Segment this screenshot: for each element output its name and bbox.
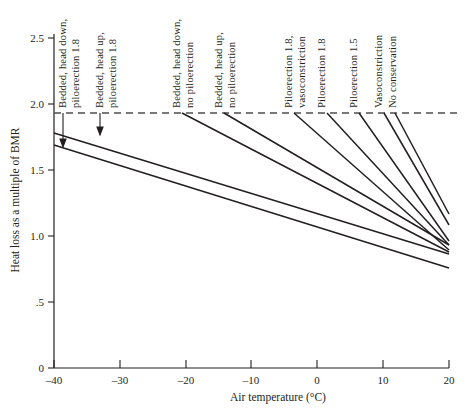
series-label-piloerection-1.8-vasoconstriction-line1: Piloerection 1.8, xyxy=(283,35,294,108)
series-label-bedded-head-up-piloerection-1.8-line1: Bedded, head up, xyxy=(94,32,105,108)
y-axis-title: Heat loss as a multiple of BMR xyxy=(9,127,22,272)
series-label-bedded-head-up-no-piloerection-line1: Bedded, head up, xyxy=(213,32,224,108)
series-label-piloerection-1.8: Piloerection 1.8 xyxy=(316,38,327,108)
x-tick-label-10: 10 xyxy=(378,374,390,386)
series-label-bedded-head-down-no-piloerection-line2: no piloerection xyxy=(184,41,195,108)
x-tick-label-0: 0 xyxy=(314,374,320,386)
y-tick-label-2.0: 2.0 xyxy=(30,98,44,110)
series-label-piloerection-1.5: Piloerection 1.5 xyxy=(348,38,359,108)
series-label-bedded-head-down-piloerection-1.8-line2: piloerection 1.8 xyxy=(70,39,81,108)
x-tick-label--10: –10 xyxy=(242,374,260,386)
y-tick-label-2.5: 2.5 xyxy=(30,32,44,44)
y-tick-label-0: 0 xyxy=(39,362,45,374)
series-label-bedded-head-up-no-piloerection-line2: no piloerection xyxy=(226,41,237,108)
y-tick-label-1.0: 1.0 xyxy=(30,230,44,242)
y-tick-label-1.5: 1.5 xyxy=(30,164,44,176)
x-tick-label--30: –30 xyxy=(111,374,129,386)
x-tick-label--20: –20 xyxy=(177,374,195,386)
series-label-vasoconstriction: Vasoconstriction xyxy=(373,34,384,108)
series-label-bedded-head-down-piloerection-1.8-line1: Bedded, head down, xyxy=(57,19,68,108)
series-label-bedded-head-up-piloerection-1.8-line2: piloerection 1.8 xyxy=(107,39,118,108)
chart-figure: 0 .5 1.0 1.5 2.0 2.5 –40 –30 –20 –10 0 1… xyxy=(0,0,471,414)
series-label-no-conservation: No conservation xyxy=(387,35,398,108)
chart-svg: 0 .5 1.0 1.5 2.0 2.5 –40 –30 –20 –10 0 1… xyxy=(0,0,471,414)
series-label-piloerection-1.8-vasoconstriction-line2: vasoconstriction xyxy=(296,35,307,108)
x-tick-label--40: –40 xyxy=(45,374,63,386)
x-tick-label-20: 20 xyxy=(444,374,456,386)
y-tick-label-0.5: .5 xyxy=(36,296,45,308)
x-axis-title: Air temperature (°C) xyxy=(230,391,326,404)
series-label-bedded-head-down-no-piloerection-line1: Bedded, head down, xyxy=(171,19,182,108)
